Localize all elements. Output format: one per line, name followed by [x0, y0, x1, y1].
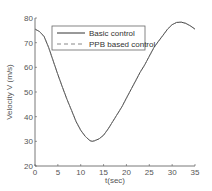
velocity-chart: 0510152025303520304050607080 t(sec) Velo… [0, 0, 212, 191]
x-tick-label: 0 [33, 168, 38, 177]
y-tick-label: 40 [24, 113, 33, 122]
y-tick-label: 80 [24, 14, 33, 23]
legend-item-basic-control: Basic control [89, 29, 135, 38]
y-tick-label: 70 [24, 39, 33, 48]
y-tick-label: 20 [24, 162, 33, 171]
y-tick-label: 50 [24, 88, 33, 97]
x-tick-label: 10 [76, 168, 85, 177]
x-tick-label: 25 [145, 168, 154, 177]
legend-item-ppb-control: PPB based control [89, 40, 155, 49]
y-axis-label: Velocity V (m/s) [5, 64, 14, 120]
y-tick-label: 30 [24, 137, 33, 146]
x-axis-label: t(sec) [105, 176, 125, 185]
x-tick-label: 35 [191, 168, 200, 177]
legend: Basic control PPB based control [52, 26, 155, 50]
x-tick-label: 30 [168, 168, 177, 177]
x-tick-label: 5 [56, 168, 61, 177]
y-tick-label: 60 [24, 63, 33, 72]
